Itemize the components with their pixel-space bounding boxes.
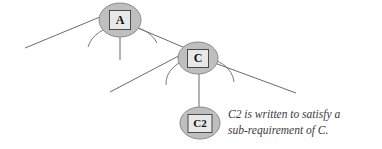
node-c2[interactable]: C2 bbox=[180, 107, 220, 139]
node-a[interactable]: A bbox=[99, 3, 141, 37]
node-c-label: C bbox=[194, 51, 203, 65]
diagram-canvas: A C C2 C2 is written to satisfy a sub-re… bbox=[0, 0, 382, 149]
annotation-line-2: sub-requirement of C. bbox=[228, 122, 328, 138]
edge-c-right bbox=[212, 62, 296, 93]
node-c2-label: C2 bbox=[193, 117, 207, 129]
node-a-label: A bbox=[116, 13, 125, 27]
node-c[interactable]: C bbox=[178, 42, 218, 74]
annotation-line-1: C2 is written to satisfy a bbox=[228, 106, 340, 122]
edges-group bbox=[25, 12, 296, 110]
